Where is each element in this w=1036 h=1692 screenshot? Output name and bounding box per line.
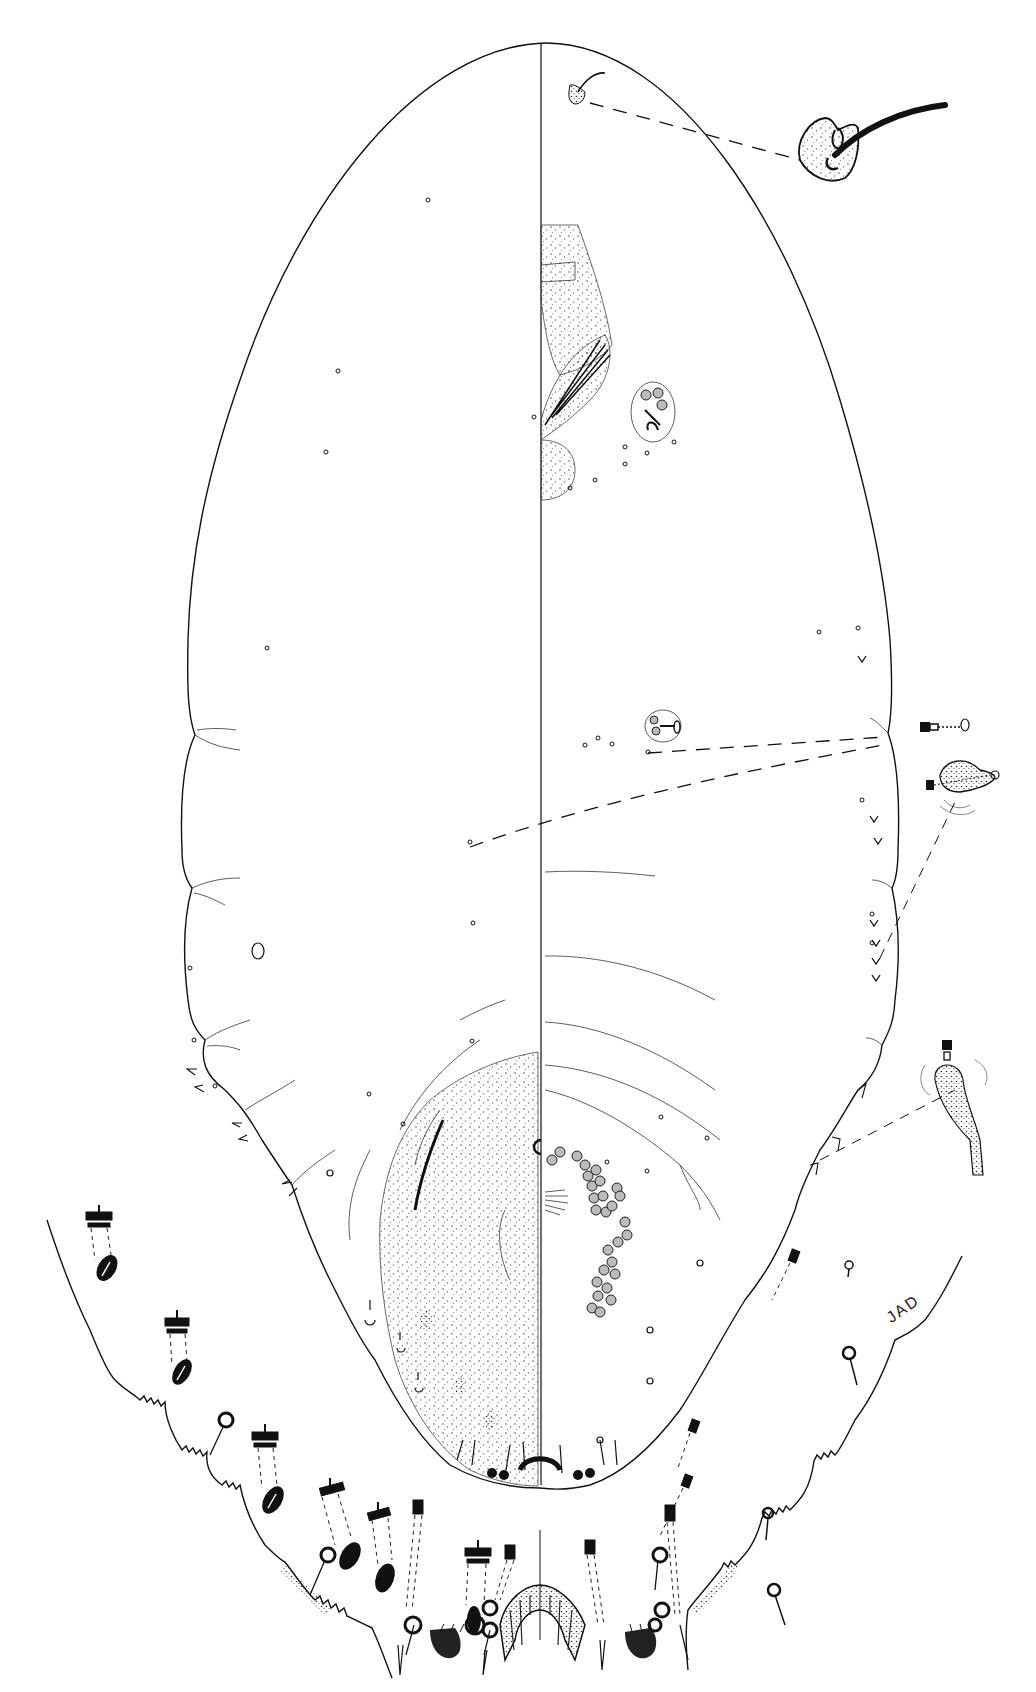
stippled-plate [380,1052,538,1486]
dorsal-pore [252,943,264,959]
duct-6 [406,1500,423,1610]
spot-2 [454,1376,466,1394]
callout-conical-seta-enlarged [921,1040,987,1175]
callout-seta-enlarged [799,105,945,181]
insect-illustration: JAD [0,0,1036,1692]
dorsal-setae [188,198,821,1126]
callout-leader-pore [880,802,955,958]
duct-3 [252,1424,288,1517]
spot-3 [484,1410,496,1430]
duct-1 [86,1205,122,1285]
spot-1 [420,1309,432,1331]
illustration-canvas [0,0,1036,1692]
duct-r2 [653,1505,680,1617]
ventral-segment-arcs [545,871,720,1220]
body-outline [181,43,898,1489]
segment-folds-left [192,729,335,1186]
segment-folds-right [866,718,892,1045]
posterior-spiracle [645,710,681,742]
duct-5 [367,1502,398,1595]
ventral-ducts [858,656,882,981]
duct-2 [165,1310,196,1388]
comb-structure [545,1190,568,1215]
duct-r4 [678,1419,700,1468]
callout-seta-small [569,73,605,104]
anterior-spiracle [631,382,675,442]
multilocular-pores [547,1147,632,1317]
anal-ring-enlarged [500,1585,585,1660]
seta-ring-1 [210,1413,233,1455]
ventral-setae [568,440,874,1173]
duct-r5 [772,1249,800,1300]
leg-region [541,225,612,500]
duct-4 [310,1478,365,1595]
duct-7 [465,1540,491,1634]
callout-duct-enlarged [920,719,969,732]
callout-leader-dorsal [470,745,883,847]
callout-leader-seta [590,103,800,160]
callout-pore-cluster-enlarged [926,761,999,815]
duct-8 [495,1545,515,1600]
callout-leader-conical [820,1090,955,1160]
callout-leader-duct [648,737,885,753]
duct-r1 [585,1540,604,1625]
